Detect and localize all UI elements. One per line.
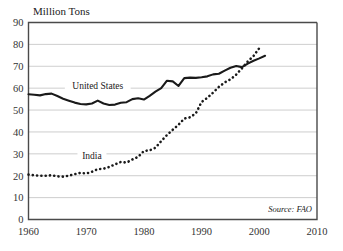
x-tick-1980: 1980: [133, 226, 154, 237]
y-tick-50: 50: [13, 105, 24, 116]
x-tick-2000: 2000: [249, 226, 270, 237]
y-tick-80: 80: [13, 39, 24, 50]
x-tick-2010: 2010: [307, 226, 328, 237]
y-tick-40: 40: [13, 127, 24, 138]
y-tick-60: 60: [13, 83, 24, 94]
y-tick-70: 70: [13, 61, 24, 72]
y-tick-labels: 0102030405060708090: [13, 17, 24, 225]
y-tick-0: 0: [18, 214, 23, 225]
chart-figure: 0102030405060708090 19601970198019902000…: [0, 0, 343, 251]
y-tick-90: 90: [13, 17, 24, 28]
y-tick-30: 30: [13, 149, 24, 160]
y-tick-10: 10: [13, 192, 24, 203]
x-tick-labels: 196019701980199020002010: [18, 226, 328, 237]
axes-group: [29, 23, 318, 220]
y-axis-title: Million Tons: [33, 5, 90, 17]
x-tick-1960: 1960: [18, 226, 39, 237]
series-label-india: India: [82, 151, 102, 161]
series-layer: [29, 48, 266, 176]
series-label-united-states: United States: [72, 81, 123, 91]
x-tick-1990: 1990: [191, 226, 212, 237]
source-note: Source: FAO: [268, 204, 312, 214]
series-line-india: [29, 48, 260, 176]
line-chart: 0102030405060708090 19601970198019902000…: [0, 0, 343, 251]
series-inline-labels: United StatesIndia: [65, 81, 131, 162]
x-tick-1970: 1970: [76, 226, 97, 237]
axis-frame: [29, 23, 318, 220]
y-tick-20: 20: [13, 171, 24, 182]
